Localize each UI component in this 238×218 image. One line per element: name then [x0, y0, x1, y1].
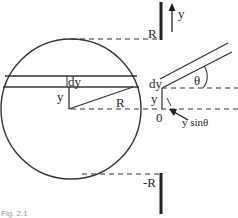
label-axis-top: R [148, 26, 157, 41]
label-y-inclined: y [151, 91, 158, 106]
y-arrow-icon [169, 3, 176, 32]
label-y-sin-theta: y sinθ [182, 116, 208, 128]
projection-tick [167, 98, 171, 106]
label-axis-bottom: -R [143, 175, 156, 190]
label-dy-circle: dy [68, 74, 82, 89]
diagram-canvas: dy y R R y -R θ dy y 0 y sinθ Fig. 2.1 [0, 0, 238, 218]
label-y-circle: y [57, 89, 64, 104]
label-dy-inclined: dy [149, 76, 163, 91]
label-theta: θ [194, 73, 200, 88]
figure-caption: Fig. 2.1 [1, 209, 28, 218]
label-axis-direction: y [178, 6, 185, 21]
label-radius: R [116, 95, 125, 110]
label-origin: 0 [156, 110, 163, 125]
theta-arc [203, 66, 207, 88]
